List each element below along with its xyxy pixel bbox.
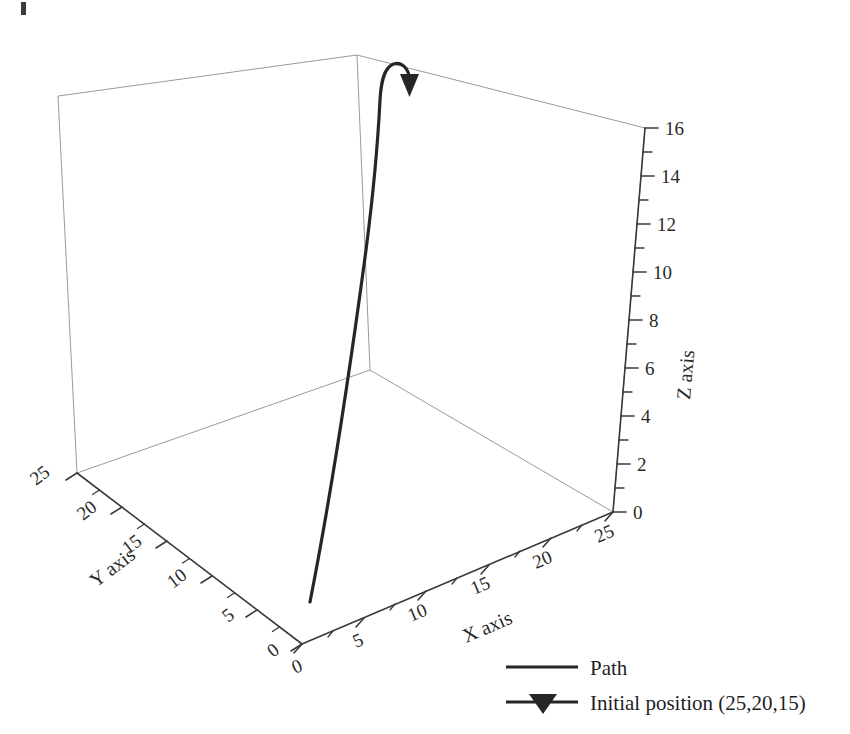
page-margin-mark [21,2,26,15]
z-tick-label-10: 10 [653,262,672,283]
z-axis-title: Z axis [672,349,698,400]
legend-label-initial-position: Initial position (25,20,15) [590,691,806,715]
plot-canvas: 25 20 15 10 5 0 Y axis [0,0,850,734]
z-tick-label-4: 4 [641,406,651,427]
z-tick-label-0: 0 [633,502,643,523]
z-tick-label-12: 12 [657,214,676,235]
z-tick-label-16: 16 [665,118,684,139]
z-tick-label-14: 14 [661,166,681,187]
z-tick-label-8: 8 [649,310,659,331]
figure-3d-path-plot: 25 20 15 10 5 0 Y axis [0,0,850,734]
canvas-background [0,0,850,734]
legend-label-path: Path [590,656,628,680]
z-tick-label-6: 6 [645,358,655,379]
z-tick-label-2: 2 [637,454,647,475]
